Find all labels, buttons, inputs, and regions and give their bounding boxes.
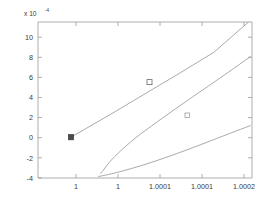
series-loop-lower-branch (98, 126, 250, 177)
matlab-figure-window: 10 8 6 4 2 0 -2 -4 1 1 1.0001 1.0001 1.0… (0, 0, 272, 207)
y-tick-labels: 10 8 6 4 2 0 -2 -4 (25, 33, 33, 183)
y-tick-label: 10 (25, 33, 33, 42)
axes-frame (38, 22, 252, 178)
x-axis-ticks (76, 22, 244, 178)
plot-canvas: 10 8 6 4 2 0 -2 -4 1 1 1.0001 1.0001 1.0… (0, 0, 272, 207)
y-axis-ticks (38, 37, 252, 178)
y-tick-label: -4 (27, 174, 33, 183)
y-exponent-base: x 10 (24, 10, 37, 17)
y-exponent-power: -4 (45, 8, 50, 13)
data-curves (71, 22, 251, 176)
x-tick-label: 1.0002 (233, 182, 255, 191)
y-tick-label: -2 (27, 154, 33, 163)
x-tick-labels: 1 1 1.0001 1.0001 1.0002 (74, 182, 255, 191)
y-tick-label: 6 (29, 73, 33, 82)
marker-origin (68, 135, 73, 140)
y-tick-label: 2 (29, 113, 33, 122)
marker-loop-point (185, 113, 190, 118)
series-loop-upper-branch (101, 57, 251, 174)
x-tick-label: 1.0001 (149, 182, 171, 191)
y-tick-label: 8 (29, 53, 33, 62)
y-tick-label: 4 (29, 93, 33, 102)
data-markers (68, 80, 189, 140)
y-tick-label: 0 (29, 133, 33, 142)
x-tick-label: 1 (116, 182, 120, 191)
x-tick-label: 1.0001 (191, 182, 213, 191)
marker-midpoint (147, 80, 152, 85)
y-axis-exponent-label: x 10 -4 (24, 8, 50, 17)
x-tick-label: 1 (74, 182, 78, 191)
